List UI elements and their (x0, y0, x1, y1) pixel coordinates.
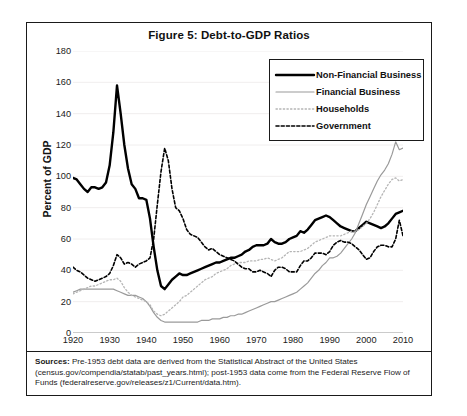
y-tick-label: 20 (61, 297, 71, 307)
y-tick-label: 40 (61, 265, 71, 275)
legend-item[interactable]: Non-Financial Business (274, 66, 419, 83)
y-tick-label: 180 (56, 46, 71, 56)
x-tick-label: 1980 (283, 335, 303, 345)
legend-label: Financial Business (316, 87, 400, 97)
plot-container: Percent of GDP 020406080100120140160180 … (27, 23, 433, 397)
y-tick-label: 160 (56, 77, 71, 87)
x-axis-ticks: 1920193019401950196019701980199020002010 (73, 335, 403, 351)
source-text: Pre-1953 debt data are derived from the … (35, 357, 410, 387)
legend-item[interactable]: Government (274, 117, 419, 134)
legend-label: Households (316, 104, 369, 114)
x-tick-label: 1940 (136, 335, 156, 345)
y-tick-label: 140 (56, 109, 71, 119)
legend-item[interactable]: Households (274, 100, 419, 117)
y-axis-ticks: 020406080100120140160180 (35, 51, 71, 333)
x-tick-label: 1920 (63, 335, 83, 345)
y-tick-label: 60 (61, 234, 71, 244)
source-note: Sources: Pre-1953 debt data are derived … (27, 351, 431, 395)
legend-label: Non-Financial Business (316, 70, 421, 80)
legend-item[interactable]: Financial Business (274, 83, 419, 100)
y-tick-label: 100 (56, 171, 71, 181)
x-tick-label: 1950 (173, 335, 193, 345)
legend-label: Government (316, 121, 371, 131)
y-tick-label: 120 (56, 140, 71, 150)
x-tick-label: 2000 (356, 335, 376, 345)
x-tick-label: 1970 (246, 335, 266, 345)
x-tick-label: 2010 (393, 335, 413, 345)
legend-swatch-dashed-black (274, 120, 316, 132)
x-tick-label: 1990 (319, 335, 339, 345)
legend-swatch-solid-thick-black (274, 69, 316, 81)
legend-swatch-solid-thin-gray (274, 86, 316, 98)
series-line-households (73, 178, 403, 316)
figure-panel: Figure 5: Debt-to-GDP Ratios Percent of … (26, 22, 432, 396)
x-tick-label: 1930 (99, 335, 119, 345)
x-tick-label: 1960 (209, 335, 229, 345)
source-label: Sources: (35, 357, 70, 366)
y-tick-label: 80 (61, 203, 71, 213)
series-line-government (73, 148, 403, 281)
chart-legend: Non-Financial BusinessFinancial Business… (269, 59, 424, 141)
legend-swatch-dotted-light-gray (274, 103, 316, 115)
